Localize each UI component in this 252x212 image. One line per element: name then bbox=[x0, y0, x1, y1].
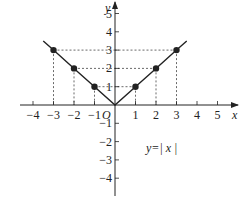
y-tick-label: −3 bbox=[99, 153, 112, 167]
x-tick-label: 5 bbox=[215, 108, 221, 122]
x-tick-label: 1 bbox=[133, 108, 139, 122]
axes bbox=[20, 2, 238, 196]
y-tick-label: −4 bbox=[99, 171, 112, 185]
origin-label: O bbox=[102, 108, 111, 122]
data-point bbox=[132, 84, 138, 90]
x-tick-label: 3 bbox=[174, 108, 180, 122]
x-tick-label: 2 bbox=[153, 108, 159, 122]
y-axis-label: y bbox=[104, 1, 111, 15]
data-point bbox=[91, 84, 97, 90]
data-point bbox=[153, 65, 159, 71]
data-point bbox=[50, 47, 56, 53]
x-tick-label: −2 bbox=[68, 108, 81, 122]
axis-ticks: −4−3−2−112345−4−3−2−112345 bbox=[27, 7, 221, 186]
x-tick-label: −3 bbox=[47, 108, 60, 122]
x-axis-label: x bbox=[231, 108, 238, 122]
x-tick-label: −4 bbox=[27, 108, 40, 122]
y-tick-label: −2 bbox=[99, 135, 112, 149]
abs-value-graph: −4−3−2−112345−4−3−2−112345 xyOy=| x | bbox=[0, 0, 252, 212]
data-point bbox=[173, 47, 179, 53]
y-tick-label: 1 bbox=[106, 80, 112, 94]
axis-labels: xyOy=| x | bbox=[102, 1, 238, 155]
x-tick-label: 4 bbox=[194, 108, 200, 122]
y-tick-label: 3 bbox=[106, 43, 112, 57]
y-tick-label: 4 bbox=[106, 25, 112, 39]
y-tick-label: 2 bbox=[106, 61, 112, 75]
function-label: y=| x | bbox=[145, 141, 177, 155]
data-point bbox=[71, 65, 77, 71]
